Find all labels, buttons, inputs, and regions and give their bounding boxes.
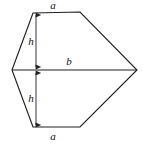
figure-canvas: a a b h h	[0, 0, 143, 146]
label-bottom-side-a: a	[50, 130, 56, 142]
geometry-figure: a a b h h	[0, 0, 143, 146]
label-upper-height-h: h	[28, 35, 34, 47]
label-top-side-a: a	[50, 0, 56, 11]
label-lower-height-h: h	[28, 92, 34, 104]
label-diagonal-b: b	[66, 55, 72, 67]
